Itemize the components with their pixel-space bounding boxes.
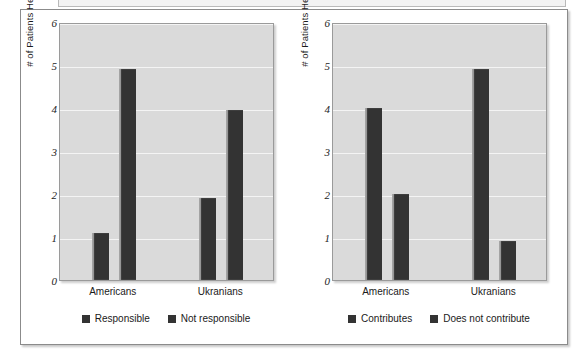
y-tick-label: 5 [308, 60, 330, 72]
y-tick-label: 5 [35, 60, 57, 72]
x-axis-category-label: Americans [89, 286, 136, 297]
legend-label: Responsible [95, 313, 150, 324]
plot-area-left [59, 23, 274, 281]
legend-swatch-icon [348, 315, 356, 323]
bar [226, 110, 243, 280]
legend-entry: Not responsible [168, 313, 250, 324]
y-tick-label: 3 [308, 146, 330, 158]
gridline [60, 24, 273, 25]
y-tick-label: 4 [308, 103, 330, 115]
bar [499, 241, 516, 280]
bar [392, 194, 409, 280]
legend-swatch-icon [430, 315, 438, 323]
x-axis-category-label: Ukranians [471, 286, 516, 297]
y-tick-label: 2 [308, 189, 330, 201]
y-tick-label: 6 [35, 17, 57, 29]
y-tick-label: 0 [35, 275, 57, 287]
bar [199, 198, 216, 280]
legend-label: Does not contribute [443, 313, 530, 324]
bar [472, 69, 489, 280]
gridline [333, 67, 546, 68]
x-axis-labels-right: AmericansUkranians [332, 286, 547, 302]
legend-swatch-icon [168, 315, 176, 323]
y-tick-label: 6 [308, 17, 330, 29]
y-tick-label: 2 [35, 189, 57, 201]
chart-panels: # of Patients Helped 6543210 AmericansUk… [21, 10, 567, 344]
legend-left: ResponsibleNot responsible [41, 313, 291, 324]
gridline [333, 24, 546, 25]
legend-entry: Does not contribute [430, 313, 530, 324]
chart-panel-left: # of Patients Helped 6543210 AmericansUk… [21, 10, 294, 344]
figure-frame: # of Patients Helped 6543210 AmericansUk… [20, 9, 568, 345]
y-tick-label: 0 [308, 275, 330, 287]
y-tick-label: 1 [35, 232, 57, 244]
chart-panel-right: # of Patients Helped 6543210 AmericansUk… [294, 10, 567, 344]
plot-area-right [332, 23, 547, 281]
x-axis-category-label: Ukranians [198, 286, 243, 297]
gridline [60, 67, 273, 68]
legend-entry: Responsible [82, 313, 150, 324]
legend-right: ContributesDoes not contribute [314, 313, 564, 324]
y-tick-label: 1 [308, 232, 330, 244]
y-tick-label: 3 [35, 146, 57, 158]
bar [92, 233, 109, 280]
x-axis-category-label: Americans [362, 286, 409, 297]
y-tick-label: 4 [35, 103, 57, 115]
legend-label: Contributes [361, 313, 412, 324]
y-axis-ticks-right: 6543210 [308, 23, 330, 281]
bar [119, 69, 136, 280]
legend-entry: Contributes [348, 313, 412, 324]
x-axis-labels-left: AmericansUkranians [59, 286, 274, 302]
y-axis-ticks-left: 6543210 [35, 23, 57, 281]
top-cutoff-strip [58, 0, 566, 7]
bar [365, 108, 382, 280]
legend-label: Not responsible [181, 313, 250, 324]
legend-swatch-icon [82, 315, 90, 323]
